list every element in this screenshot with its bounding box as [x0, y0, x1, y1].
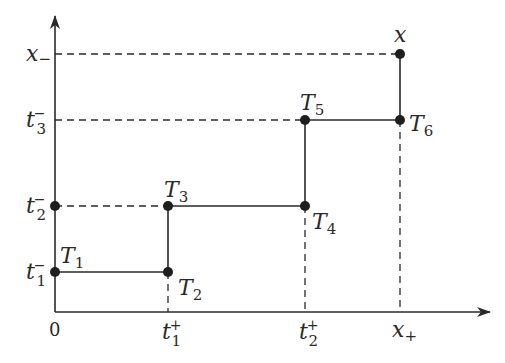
dashed-guides: [55, 54, 400, 312]
ytick-xminus: x−: [26, 41, 51, 68]
point-T5: [300, 115, 310, 125]
point-t2minus-axis: [50, 201, 60, 211]
point-T4: [300, 201, 310, 211]
point-T6: [395, 115, 405, 125]
label-T4: T4: [312, 209, 336, 238]
point-T2: [163, 267, 173, 277]
xtick-t1plus: t+1: [162, 317, 182, 350]
step-path-diagram: T1 T2 T3 T4 T5 T6 x x− t−3 t−2 t−1 0 t+1…: [0, 0, 505, 363]
step-path: [55, 54, 400, 272]
point-x: [395, 49, 405, 59]
diagram-svg: T1 T2 T3 T4 T5 T6 x x− t−3 t−2 t−1 0 t+1…: [0, 0, 505, 363]
label-T6: T6: [409, 111, 433, 140]
label-T2: T2: [178, 275, 202, 304]
path-points: [50, 49, 405, 277]
ytick-t2minus: t−2: [26, 191, 46, 224]
ytick-t1minus: t−1: [26, 257, 46, 290]
point-T1: [50, 267, 60, 277]
point-T3: [163, 201, 173, 211]
label-T3: T3: [164, 177, 188, 206]
label-T1: T1: [60, 243, 84, 272]
ytick-t3minus: t−3: [26, 105, 46, 138]
xtick-origin: 0: [49, 319, 60, 340]
xtick-t2plus: t+2: [299, 317, 319, 350]
label-T5: T5: [300, 90, 324, 119]
xtick-xplus: x+: [392, 317, 417, 345]
label-x: x: [394, 22, 407, 47]
